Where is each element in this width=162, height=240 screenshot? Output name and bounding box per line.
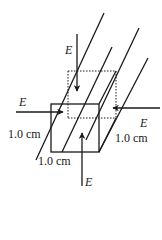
label-field-top: E [65,44,72,56]
label-edge-bottom: 1.0 cm [38,155,71,167]
cube-edge-top-right [99,71,116,104]
cube-back-face [68,71,116,118]
label-edge-left: 1.0 cm [8,128,41,140]
label-edge-right: 1.0 cm [115,132,148,144]
label-field-right: E [140,117,147,129]
label-field-left: E [19,96,26,108]
cube-edge-bottom-right [99,118,116,152]
label-field-bottom: E [85,176,92,188]
